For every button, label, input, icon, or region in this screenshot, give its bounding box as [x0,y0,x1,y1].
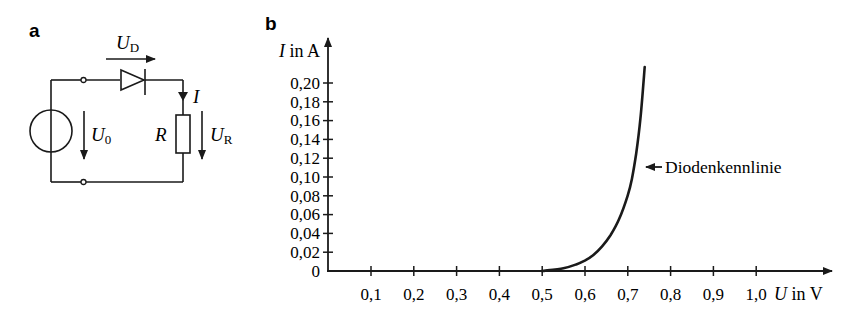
panel-b: b I in A 0 0,02 0,04 0,06 0,08 0,10 0,12 [265,13,832,304]
y-tick-label: 0,08 [290,187,320,206]
x-tick-label: 0,4 [489,285,511,304]
x-tick-label: 0,3 [446,285,467,304]
x-tick-label: 0,9 [703,285,724,304]
y-tick-label: 0,14 [290,130,320,149]
figure: a [0,0,864,321]
panel-a-label: a [29,20,40,41]
curve-annotation: Diodenkennlinie [646,157,782,177]
x-tick-label: 0,7 [617,285,639,304]
y-axis-label: I in A [278,41,320,61]
y-tick-label: 0,12 [290,149,320,168]
x-tick-label: 0,5 [532,285,553,304]
diode-characteristic-curve [542,67,645,271]
diode-voltage-label: UD [116,32,139,55]
diode-icon [121,69,145,95]
y-tick-label: 0,02 [290,243,320,262]
x-axis-label: U in V [774,284,823,304]
terminal-bottom [81,180,86,185]
y-tick-labels: 0 0,02 0,04 0,06 0,08 0,10 0,12 0,14 0,1… [290,74,320,281]
panel-b-label: b [265,13,277,34]
resistor-voltage-label: UR [210,124,233,147]
resistor-icon [176,115,190,153]
x-tick-label: 0,6 [574,285,595,304]
y-tick-label: 0,18 [290,93,320,112]
y-tick-label: 0 [312,262,321,281]
x-tick-labels: 0,1 0,2 0,3 0,4 0,5 0,6 0,7 0,8 0,9 1,0 [360,285,766,304]
panel-a: a [29,20,233,185]
voltage-source-icon [30,110,72,152]
x-tick-label: 0,8 [660,285,681,304]
y-tick-label: 0,06 [290,205,320,224]
x-tick-label: 1,0 [746,285,767,304]
x-tick-label: 0,2 [403,285,424,304]
source-voltage-label: U0 [91,124,111,147]
y-tick-label: 0,20 [290,74,320,93]
resistor-label: R [154,124,167,145]
y-tick-label: 0,04 [290,224,320,243]
current-label: I [192,86,201,107]
y-tick-label: 0,16 [290,111,320,130]
terminal-top [81,78,86,83]
y-tick-label: 0,10 [290,168,320,187]
annotation-label: Diodenkennlinie [665,157,782,177]
current-arrow-icon [178,92,188,101]
x-tick-label: 0,1 [360,285,381,304]
